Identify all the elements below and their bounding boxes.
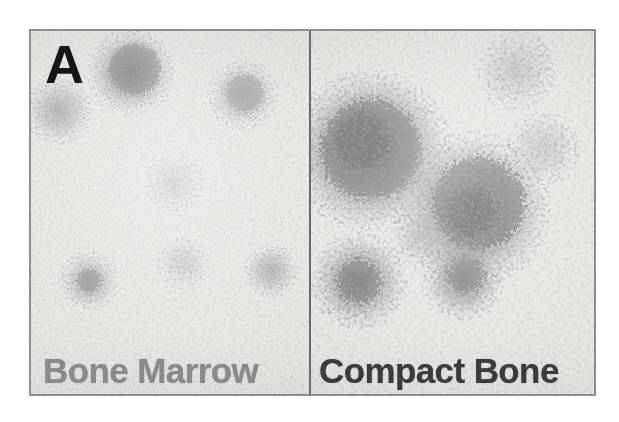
micrograph-figure: A Bone Marrow [29,29,596,396]
caption-bone-marrow: Bone Marrow [43,353,258,388]
colony-layer-compact-bone [311,31,594,394]
caption-compact-bone: Compact Bone [319,353,559,388]
panel-compact-bone: Compact Bone [311,31,594,394]
panel-bone-marrow: A Bone Marrow [31,31,311,394]
panel-label-a: A [45,37,83,91]
